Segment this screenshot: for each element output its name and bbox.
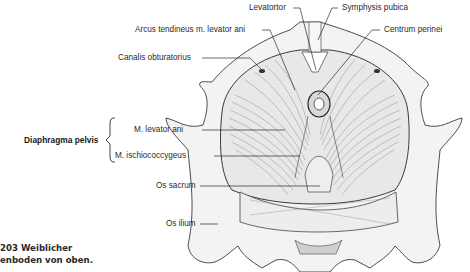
label-diaphragma-pelvis: Diaphragma pelvis xyxy=(24,136,98,144)
label-centrum-perinei: Centrum perinei xyxy=(384,26,442,34)
label-canalis-obturatorius: Canalis obturatorius xyxy=(118,54,191,62)
label-levatortor: Levatortor xyxy=(249,4,286,12)
figure-caption-line2: enboden von oben. xyxy=(0,255,93,266)
label-m-levator-ani: M. levator ani xyxy=(134,126,183,134)
label-os-sacrum: Os sacrum xyxy=(156,182,196,190)
label-os-ilium: Os ilium xyxy=(166,220,196,228)
brace xyxy=(106,118,115,162)
label-arcus-tendineus: Arcus tendineus m. levator ani xyxy=(135,26,245,34)
label-m-ischiococcygeus: M. ischiococcygeus xyxy=(115,152,186,160)
label-symphysis-pubica: Symphysis pubica xyxy=(342,4,408,12)
figure-caption-line1: 203 Weiblicher xyxy=(0,243,72,254)
